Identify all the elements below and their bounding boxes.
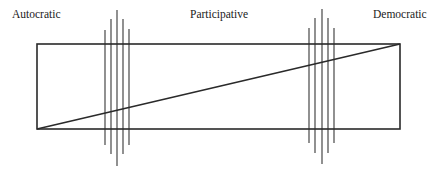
divider-lines [105,9,334,166]
divider-group-right [309,9,334,164]
divider-group-left [105,10,129,166]
leadership-continuum-diagram [0,0,437,175]
diagonal-line [37,44,400,129]
